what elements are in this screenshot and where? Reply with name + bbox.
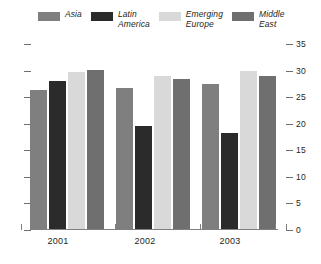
bar-2002-emerging-europe: [154, 76, 171, 230]
bar-2002-latin-america: [135, 126, 152, 230]
y-tick-label-10: 10: [296, 172, 306, 182]
y-tick-right-0: [286, 230, 293, 231]
chart-legend: Asia Latin America Emerging Europe Middl…: [38, 10, 288, 36]
bar-2003-latin-america: [221, 133, 238, 230]
y-tick-right-10: [286, 177, 293, 178]
bar-2003-middle-east: [259, 76, 276, 230]
y-tick-label-20: 20: [296, 119, 306, 129]
y-tick-label-25: 25: [296, 92, 306, 102]
legend-swatch-middle-east: [232, 12, 254, 21]
legend-item-middle-east: Middle East: [232, 10, 285, 29]
bar-chart: Asia Latin America Emerging Europe Middl…: [0, 0, 321, 264]
bar-2002-middle-east: [173, 79, 190, 230]
bar-2003-asia: [202, 84, 219, 230]
x-axis-line: [30, 229, 278, 230]
plot-area: [30, 44, 275, 230]
bar-2001-emerging-europe: [68, 72, 85, 230]
legend-item-emerging-europe: Emerging Europe: [159, 10, 223, 29]
legend-label-asia: Asia: [65, 10, 82, 20]
legend-swatch-asia: [38, 12, 60, 21]
y-tick-label-35: 35: [296, 39, 306, 49]
bar-2003-emerging-europe: [240, 71, 257, 230]
y-tick-label-30: 30: [296, 66, 306, 76]
y-tick-right-30: [286, 71, 293, 72]
bar-2001-asia: [30, 90, 47, 230]
y-axis-right-spine: [286, 224, 287, 230]
separator-tick-1: [115, 224, 116, 229]
y-tick-right-20: [286, 124, 293, 125]
legend-swatch-emerging-europe: [159, 12, 181, 21]
y-tick-right-15: [286, 150, 293, 151]
separator-tick-3: [275, 224, 276, 229]
separator-tick-2: [200, 224, 201, 229]
legend-label-latin-america: Latin America: [118, 10, 150, 29]
legend-label-emerging-europe: Emerging Europe: [186, 10, 223, 29]
y-tick-right-35: [286, 44, 293, 45]
x-axis-label-2001: 2001: [18, 236, 98, 246]
bar-group-2003: [202, 44, 276, 230]
bar-2001-middle-east: [87, 70, 104, 230]
y-tick-right-5: [286, 203, 293, 204]
x-axis-label-2002: 2002: [105, 236, 185, 246]
bar-2002-asia: [116, 88, 133, 230]
y-tick-label-5: 5: [296, 198, 301, 208]
bar-2001-latin-america: [49, 81, 66, 230]
y-tick-left-0: [24, 230, 31, 231]
bar-group-2001: [30, 44, 104, 230]
legend-item-asia: Asia: [38, 10, 82, 21]
legend-swatch-latin-america: [91, 12, 113, 21]
y-tick-label-0: 0: [296, 225, 301, 235]
x-axis-label-2003: 2003: [190, 236, 270, 246]
y-axis-right: 05101520253035: [281, 0, 321, 264]
legend-item-latin-america: Latin America: [91, 10, 150, 29]
bar-group-2002: [116, 44, 190, 230]
y-tick-right-25: [286, 97, 293, 98]
y-axis-left-spine: [21, 224, 22, 230]
y-tick-label-15: 15: [296, 145, 306, 155]
